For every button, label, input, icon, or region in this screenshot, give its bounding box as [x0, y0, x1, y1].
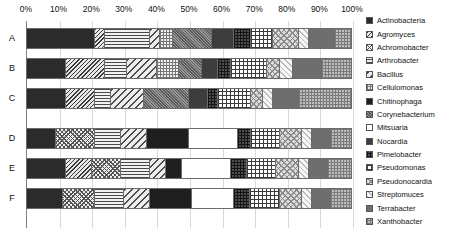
bar-segment-e-achromobacter[interactable]: [92, 159, 121, 178]
bar-segment-a-arthrobacter[interactable]: [105, 29, 150, 48]
bar-segment-f-achromobacter[interactable]: [63, 189, 95, 208]
legend-item-pimelobacter[interactable]: Pimelobacter: [366, 148, 455, 161]
bar-segment-f-arthrobacter[interactable]: [95, 189, 124, 208]
bar-segment-b-xanthobacter[interactable]: [322, 59, 351, 78]
stacked-bar-c[interactable]: [26, 88, 352, 109]
bar-segment-e-terrabacter[interactable]: [309, 159, 328, 178]
legend-item-cellulomonas[interactable]: Cellulomonas: [366, 81, 455, 94]
legend-item-bacillus[interactable]: Bacillus: [366, 68, 455, 81]
stacked-bar-b[interactable]: [26, 58, 352, 79]
bar-segment-d-achromobacter[interactable]: [56, 129, 95, 148]
bar-segment-f-terrabacter[interactable]: [312, 189, 331, 208]
bar-segment-b-actinobacteria[interactable]: [27, 59, 66, 78]
bar-segment-a-bacillus[interactable]: [150, 29, 160, 48]
bar-segment-e-mitsuaria[interactable]: [182, 159, 231, 178]
bar-segment-a-actinobacteria[interactable]: [27, 29, 95, 48]
bar-segment-e-pimelobacter[interactable]: [231, 159, 247, 178]
bar-segment-a-pimelobacter[interactable]: [234, 29, 250, 48]
bar-segment-d-xanthobacter[interactable]: [331, 129, 350, 148]
bar-segment-a-pseudomonas[interactable]: [251, 29, 274, 48]
bar-segment-d-pimelobacter[interactable]: [238, 129, 251, 148]
bar-segment-a-pseudonocardia[interactable]: [273, 29, 299, 48]
bar-segment-b-terrabacter[interactable]: [293, 59, 322, 78]
bar-segment-d-pseudomonas[interactable]: [251, 129, 280, 148]
legend-item-corynebacterium[interactable]: Corynebacterium: [366, 108, 455, 121]
legend-item-chitinophaga[interactable]: Chitinophaga: [366, 94, 455, 107]
bar-segment-e-pseudomonas[interactable]: [247, 159, 276, 178]
bar-segment-d-arthrobacter[interactable]: [95, 129, 121, 148]
bar-segment-b-pseudonocardia[interactable]: [267, 59, 280, 78]
bar-segment-e-xanthobacter[interactable]: [328, 159, 351, 178]
legend-item-arthrobacter[interactable]: Arthrobacter: [366, 54, 455, 67]
bar-segment-a-terrabacter[interactable]: [309, 29, 335, 48]
bar-segment-e-arthrobacter[interactable]: [121, 159, 150, 178]
bar-segment-a-streptomuces[interactable]: [299, 29, 309, 48]
legend-item-pseudonocardia[interactable]: Pseudonocardia: [366, 175, 455, 188]
bar-segment-c-pseudomonas[interactable]: [218, 89, 250, 108]
bar-segment-c-nocardia[interactable]: [189, 89, 208, 108]
legend-item-actinobacteria[interactable]: Actinobacteria: [366, 14, 455, 27]
bar-segment-b-streptomuces[interactable]: [280, 59, 293, 78]
bar-segment-f-streptomuces[interactable]: [302, 189, 312, 208]
bar-segment-f-mitsuaria[interactable]: [192, 189, 234, 208]
bar-segment-b-bacillus[interactable]: [127, 59, 156, 78]
bar-segment-d-terrabacter[interactable]: [312, 129, 331, 148]
bar-segment-a-xanthobacter[interactable]: [335, 29, 351, 48]
bar-segment-a-agromyces[interactable]: [95, 29, 105, 48]
bar-segment-f-pimelobacter[interactable]: [234, 189, 250, 208]
bar-segment-b-corynebacterium[interactable]: [179, 59, 202, 78]
bar-segment-c-terrabacter[interactable]: [273, 89, 299, 108]
bar-segment-c-pseudonocardia[interactable]: [251, 89, 264, 108]
bar-segment-b-pseudomonas[interactable]: [231, 59, 267, 78]
bar-segment-e-actinobacteria[interactable]: [27, 159, 66, 178]
bar-segment-b-arthrobacter[interactable]: [105, 59, 128, 78]
bar-segment-b-cellulomonas[interactable]: [157, 59, 180, 78]
bar-segment-a-corynebacterium[interactable]: [173, 29, 212, 48]
bar-segment-f-chitinophaga[interactable]: [150, 189, 192, 208]
bar-segment-f-xanthobacter[interactable]: [331, 189, 350, 208]
legend-item-agromyces[interactable]: Agromyces: [366, 27, 455, 40]
legend-item-achromobacter[interactable]: Achromobacter: [366, 41, 455, 54]
bar-segment-e-streptomuces[interactable]: [299, 159, 309, 178]
bar-segment-c-actinobacteria[interactable]: [27, 89, 66, 108]
bar-segment-c-streptomuces[interactable]: [263, 89, 273, 108]
bar-segment-e-pseudonocardia[interactable]: [276, 159, 299, 178]
bar-segment-c-corynebacterium[interactable]: [144, 89, 189, 108]
stacked-bar-f[interactable]: [26, 188, 352, 209]
bar-segment-d-bacillus[interactable]: [121, 129, 147, 148]
legend-item-terrabacter[interactable]: Terrabacter: [366, 201, 455, 214]
bar-segment-a-nocardia[interactable]: [212, 29, 235, 48]
bar-segment-c-arthrobacter[interactable]: [95, 89, 111, 108]
bar-segment-d-streptomuces[interactable]: [302, 129, 312, 148]
bar-segment-b-agromyces[interactable]: [66, 59, 105, 78]
bar-segment-d-actinobacteria[interactable]: [27, 129, 56, 148]
bar-segment-b-pimelobacter[interactable]: [218, 59, 231, 78]
bar-segment-f-pseudonocardia[interactable]: [280, 189, 303, 208]
bar-segment-e-chitinophaga[interactable]: [166, 159, 182, 178]
legend-item-xanthobacter[interactable]: Xanthobacter: [366, 215, 455, 228]
bar-segment-c-pimelobacter[interactable]: [208, 89, 218, 108]
row-label-c: C: [2, 93, 22, 103]
bar-segment-a-cellulomonas[interactable]: [160, 29, 173, 48]
bar-segment-c-agromyces[interactable]: [66, 89, 95, 108]
stacked-bar-a[interactable]: [26, 28, 352, 49]
bar-segment-d-chitinophaga[interactable]: [147, 129, 189, 148]
bar-segment-e-agromyces[interactable]: [66, 159, 92, 178]
bar-segment-f-pseudomonas[interactable]: [250, 189, 279, 208]
bar-segment-f-bacillus[interactable]: [124, 189, 150, 208]
legend-item-streptomuces[interactable]: Streptomuces: [366, 188, 455, 201]
legend-item-nocardia[interactable]: Nocardia: [366, 135, 455, 148]
x-axis-tick-20: 20%: [83, 4, 100, 15]
gridline-100: [353, 21, 354, 228]
legend-item-pseudomonas[interactable]: Pseudomonas: [366, 161, 455, 174]
bar-segment-e-bacillus[interactable]: [150, 159, 166, 178]
bar-segment-f-actinobacteria[interactable]: [27, 189, 63, 208]
bar-segment-c-xanthobacter[interactable]: [299, 89, 351, 108]
bar-segment-b-nocardia[interactable]: [202, 59, 218, 78]
bar-segment-c-bacillus[interactable]: [111, 89, 143, 108]
bar-segment-d-mitsuaria[interactable]: [189, 129, 238, 148]
stacked-bar-d[interactable]: [26, 128, 352, 149]
stacked-bar-e[interactable]: [26, 158, 352, 179]
bar-segment-d-pseudonocardia[interactable]: [280, 129, 303, 148]
legend-item-mitsuaria[interactable]: Mitsuaria: [366, 121, 455, 134]
